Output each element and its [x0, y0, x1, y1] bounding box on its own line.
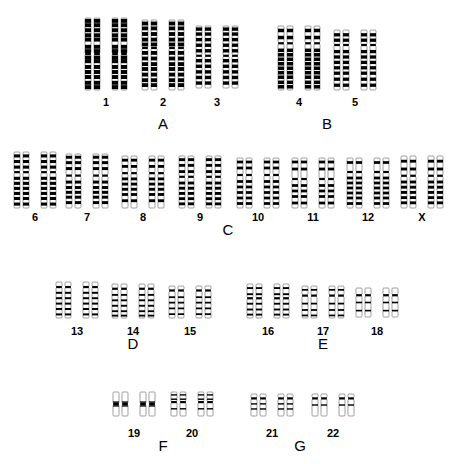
chromosome-pair-9 — [175, 152, 225, 212]
chromosome-pair-6 — [10, 148, 60, 212]
chromosome-pair-15 — [165, 282, 215, 322]
chromosome-label-x: X — [418, 211, 425, 223]
chromosome-pair-11 — [288, 154, 338, 212]
chromosome-label-4: 4 — [296, 96, 302, 108]
chromosome-pair-2 — [138, 16, 188, 94]
chromosome-label-16: 16 — [262, 325, 274, 337]
chromosome-label-20: 20 — [186, 427, 198, 439]
chromosome-label-6: 6 — [32, 211, 38, 223]
chromosome-label-10: 10 — [252, 211, 264, 223]
chromosome-label-18: 18 — [371, 325, 383, 337]
chromosome-label-13: 13 — [71, 325, 83, 337]
chromosome-label-22: 22 — [327, 427, 339, 439]
chromosome-pair-20 — [167, 388, 217, 420]
group-label-d: D — [128, 335, 139, 352]
chromosome-label-11: 11 — [307, 211, 319, 223]
chromosome-label-12: 12 — [362, 211, 374, 223]
chromosome-label-1: 1 — [103, 96, 109, 108]
chromosome-pair-8 — [118, 152, 168, 212]
chromosome-pair-21 — [247, 390, 297, 420]
chromosome-pair-x — [397, 152, 447, 212]
chromosome-pair-12 — [343, 154, 393, 212]
group-label-c: C — [223, 221, 234, 238]
chromosome-pair-18 — [352, 284, 402, 321]
chromosome-label-3: 3 — [214, 96, 220, 108]
chromosome-pair-4 — [274, 22, 324, 94]
chromosome-label-2: 2 — [160, 96, 166, 108]
chromosome-label-5: 5 — [352, 96, 358, 108]
chromosome-pair-16 — [243, 280, 293, 322]
chromosome-pair-5 — [330, 26, 380, 94]
group-label-g: G — [294, 437, 306, 454]
chromosome-pair-14 — [108, 280, 158, 322]
group-label-b: B — [322, 115, 332, 132]
chromosome-label-15: 15 — [184, 325, 196, 337]
chromosome-pair-3 — [192, 22, 242, 92]
chromosome-pair-22 — [308, 390, 358, 420]
chromosome-pair-1 — [81, 14, 131, 94]
chromosome-label-21: 21 — [266, 427, 278, 439]
karyotype-figure: 123456789101112X13141516171819202122ABCD… — [0, 0, 449, 464]
chromosome-label-9: 9 — [197, 211, 203, 223]
chromosome-label-19: 19 — [128, 427, 140, 439]
group-label-f: F — [158, 437, 167, 454]
chromosome-pair-17 — [298, 282, 348, 322]
chromosome-label-8: 8 — [140, 211, 146, 223]
group-label-e: E — [318, 335, 328, 352]
chromosome-pair-13 — [52, 278, 102, 322]
group-label-a: A — [158, 115, 168, 132]
chromosome-pair-19 — [109, 388, 159, 420]
chromosome-pair-7 — [62, 150, 112, 212]
chromosome-pair-10 — [233, 154, 283, 212]
chromosome-label-7: 7 — [84, 211, 90, 223]
